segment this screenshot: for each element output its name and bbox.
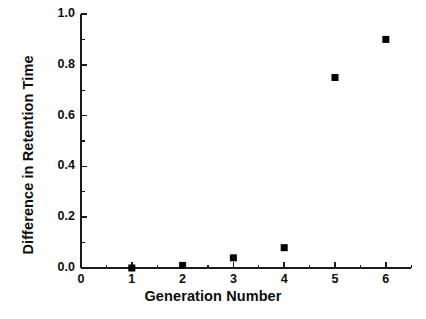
y-tick-label: 0.4 xyxy=(35,158,75,172)
x-tick-label: 0 xyxy=(66,272,96,286)
x-tick-label: 2 xyxy=(168,272,198,286)
x-axis-title: Generation Number xyxy=(0,288,426,304)
x-tick-label: 4 xyxy=(269,272,299,286)
data-point-marker xyxy=(332,74,339,81)
y-tick-label: 0.8 xyxy=(35,57,75,71)
x-tick-label: 3 xyxy=(218,272,248,286)
data-point-marker xyxy=(230,254,237,261)
y-tick-label: 0.2 xyxy=(35,209,75,223)
data-point-marker xyxy=(382,36,389,43)
y-tick-label: 1.0 xyxy=(35,6,75,20)
y-axis-title: Difference in Retention Time xyxy=(20,30,36,280)
x-tick-label: 6 xyxy=(371,272,401,286)
y-tick-label: 0.6 xyxy=(35,108,75,122)
data-point-marker xyxy=(179,262,186,269)
data-series-markers xyxy=(128,36,389,272)
x-tick-label: 1 xyxy=(117,272,147,286)
x-tick-label: 5 xyxy=(320,272,350,286)
scatter-chart-figure: 0.00.20.40.60.81.0 0123456 Generation Nu… xyxy=(0,0,426,319)
data-point-marker xyxy=(128,265,135,272)
data-point-marker xyxy=(281,244,288,251)
